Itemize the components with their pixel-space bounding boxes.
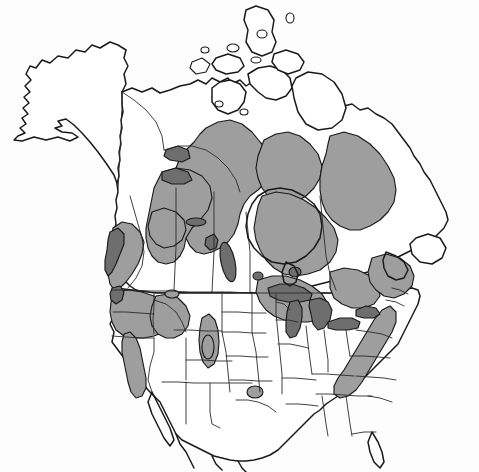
range-black-hills-spot (202, 335, 214, 359)
arctic-islet-c (201, 47, 209, 53)
arctic-islet-a (227, 44, 239, 52)
arctic-islet-g (240, 109, 248, 115)
lake-of-the-woods (253, 272, 263, 280)
melville-island (212, 54, 244, 74)
lake-erie (328, 318, 360, 330)
arctic-islet-d (286, 13, 294, 23)
lake-athabasca (186, 218, 206, 226)
arctic-islet-e (257, 30, 267, 38)
range-oklahoma-spot (247, 386, 263, 398)
arctic-islet-b (251, 57, 261, 63)
distribution-map-figure: North America distribution map thematic-… (0, 0, 479, 472)
arctic-islet-f (215, 101, 223, 107)
north-america-map (0, 0, 479, 472)
